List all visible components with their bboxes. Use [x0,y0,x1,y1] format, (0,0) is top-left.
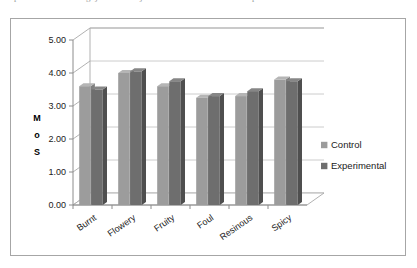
y-axis-tick-label: 5.00 [48,35,66,45]
bar-front-face [169,81,181,205]
bar-column [208,93,224,205]
y-axis-tick-label: 2.00 [48,134,66,144]
bar-front-face [130,71,142,205]
x-axis-category-label: Spicy [270,212,294,233]
wall-connector [73,61,90,73]
bar-side-face [298,78,302,205]
bar-front-face [274,80,286,205]
x-axis-category-label: Flowery [106,212,138,239]
bar-column [91,87,107,206]
bar-front-face [235,96,247,205]
top-text-fragment: j [140,0,144,2]
bar-front-face [208,96,220,205]
bar-front-face [247,91,258,205]
bar-column [130,68,146,205]
top-text-fragments: pg jjp [0,0,417,14]
top-text-fragment: g j [86,0,99,2]
top-text-fragment: p [252,0,258,2]
bar-front-face [157,86,169,205]
bar-front-face [286,81,298,205]
bar-front-face [91,90,103,206]
y-axis-title-char: S [34,147,40,157]
bar-front-face [118,73,130,205]
y-axis-tick-label: 1.00 [48,167,66,177]
bar-front-face [196,98,208,205]
y-axis-title-char: o [34,130,40,140]
y-axis-tick-label: 3.00 [48,101,66,111]
bar-side-face [142,68,146,205]
y-axis-tick-label: 4.00 [48,68,66,78]
top-text-fragment: p [14,0,20,2]
bar-column [286,78,302,205]
legend-swatch [321,142,327,148]
x-axis-category-label: Resinous [218,212,255,242]
x-axis-category-label: Fruity [152,212,177,233]
x-axis-category-label: Foul [195,212,215,230]
legend-label-text: Experimental [331,160,386,171]
y-axis-tick-label: 0.00 [48,200,66,210]
wall-connector [73,28,90,40]
bar-side-face [181,78,185,205]
bar-side-face [259,88,263,205]
x-axis-category-label: Burnt [75,212,99,233]
chart-frame: 0.001.002.003.004.005.00MoSBurntFloweryF… [10,18,406,256]
bar-side-face [220,93,224,205]
bar-chart-plot: 0.001.002.003.004.005.00MoSBurntFloweryF… [11,19,405,255]
bar-column [169,78,185,205]
legend-label-text: Control [331,139,362,150]
bar-side-face [103,87,107,206]
bar-front-face [79,86,91,205]
legend-swatch [321,163,327,169]
bar-column [247,88,263,205]
y-axis-title-char: M [33,113,41,123]
